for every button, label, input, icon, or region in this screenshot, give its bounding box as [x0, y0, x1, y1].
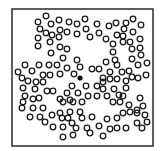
particle: [25, 78, 31, 84]
particle: [67, 109, 73, 115]
particle: [137, 45, 143, 51]
particle: [123, 78, 129, 84]
particle: [27, 114, 33, 120]
particle: [120, 33, 126, 39]
particle: [135, 75, 141, 81]
particle: [114, 125, 120, 131]
particle: [103, 36, 109, 42]
particle: [56, 34, 62, 40]
particle: [57, 71, 63, 77]
particle: [134, 120, 140, 126]
particle: [87, 130, 93, 136]
particle: [36, 62, 42, 68]
particle: [36, 95, 42, 101]
particle: [64, 29, 70, 35]
particle: [75, 90, 81, 96]
particle: [130, 29, 136, 35]
particle: [114, 62, 120, 68]
particle: [117, 99, 123, 105]
particle: [107, 69, 113, 75]
particle: [110, 99, 116, 105]
particle: [20, 99, 26, 105]
particle: [64, 46, 70, 52]
particle: [110, 41, 116, 47]
particle: [54, 62, 60, 68]
particle: [60, 134, 66, 140]
particle: [35, 19, 41, 25]
particle: [114, 115, 120, 121]
particle: [110, 49, 116, 55]
particle: [32, 86, 38, 92]
particle: [104, 93, 110, 99]
particle: [74, 21, 80, 27]
particle: [89, 114, 95, 120]
particle: [114, 32, 120, 38]
particle: [40, 72, 46, 78]
particle: [77, 64, 83, 70]
particle: [104, 116, 110, 122]
particle: [48, 50, 54, 56]
particle: [44, 88, 50, 94]
particle: [71, 71, 77, 77]
particle: [69, 120, 75, 126]
particle: [144, 60, 150, 66]
particle: [107, 126, 113, 132]
particle: [64, 90, 70, 96]
particle: [120, 110, 126, 116]
particle: [60, 124, 66, 130]
particle: [85, 93, 91, 99]
particle: [33, 79, 39, 85]
particle: [103, 59, 109, 65]
particle: [127, 39, 133, 45]
particle: [29, 68, 35, 74]
particle: [143, 72, 149, 78]
particle: [74, 31, 80, 37]
particle: [96, 30, 102, 36]
particle: [87, 34, 93, 40]
particle: [111, 86, 117, 92]
particle: [47, 39, 53, 45]
particle: [138, 22, 144, 28]
particle: [73, 125, 79, 131]
particle-diagram: [0, 0, 161, 151]
particle: [22, 93, 28, 99]
tagged-particle: [77, 75, 82, 80]
particle: [139, 125, 145, 131]
particle: [142, 112, 148, 118]
particle: [20, 85, 26, 91]
particle: [65, 115, 71, 121]
particle: [100, 86, 106, 92]
particle: [121, 26, 127, 32]
particle: [129, 56, 135, 62]
particle: [56, 17, 62, 23]
particle: [15, 69, 21, 75]
particle: [83, 83, 89, 89]
particle: [40, 79, 46, 85]
particle: [70, 132, 76, 138]
particle: [106, 23, 112, 29]
particle: [96, 66, 102, 72]
particle: [83, 26, 89, 32]
particle: [140, 103, 146, 109]
particle-group: [15, 13, 150, 140]
particle: [135, 62, 141, 68]
particle: [43, 13, 49, 19]
particle: [113, 20, 119, 26]
particle: [79, 99, 85, 105]
particle: [37, 26, 43, 32]
particle: [19, 105, 25, 111]
particle: [46, 62, 52, 68]
particle: [48, 21, 54, 27]
particle: [64, 65, 70, 71]
particle: [77, 109, 83, 115]
particle: [144, 119, 150, 125]
particle: [107, 76, 113, 82]
particle: [69, 83, 75, 89]
particle: [130, 16, 136, 22]
particle: [82, 16, 88, 22]
particle: [126, 68, 132, 74]
particle: [30, 96, 36, 102]
particle: [74, 57, 80, 63]
particle: [129, 74, 135, 80]
particle: [100, 133, 106, 139]
